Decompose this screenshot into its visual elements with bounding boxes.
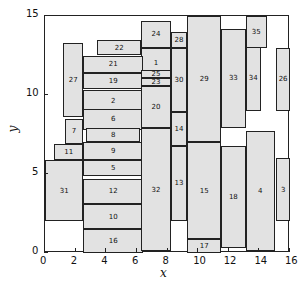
plot-area: 1234567891011121314151617181920212223242… (44, 15, 289, 252)
packed-rectangle: 7 (65, 119, 83, 144)
packed-rectangle: 22 (97, 40, 141, 56)
y-tick-label: 10 (26, 87, 39, 98)
packed-rectangle: 29 (187, 16, 221, 142)
packed-rectangle: 34 (246, 46, 261, 111)
x-tick-mark (75, 248, 76, 252)
packed-rectangle: 16 (83, 229, 143, 253)
packed-rectangle: 13 (171, 146, 188, 222)
y-tick-label: 5 (32, 166, 38, 177)
packed-rectangle: 17 (187, 239, 221, 253)
x-tick-label: 10 (193, 255, 206, 266)
x-tick-mark (289, 248, 290, 252)
packed-rectangle: 27 (63, 43, 83, 117)
x-tick-label: 4 (101, 255, 107, 266)
packed-rectangle: 33 (221, 29, 246, 129)
packed-rectangle: 6 (83, 109, 143, 130)
y-tick-mark (44, 94, 48, 95)
x-tick-label: 0 (40, 255, 46, 266)
packed-rectangle: 25 (141, 70, 170, 78)
packed-rectangle: 11 (54, 144, 83, 160)
packed-rectangle: 35 (246, 16, 267, 48)
y-tick-mark (44, 15, 48, 16)
y-tick-mark (44, 173, 48, 174)
packed-rectangle: 4 (246, 131, 275, 251)
packed-rectangle: 30 (171, 48, 188, 113)
packed-rectangle: 14 (171, 112, 188, 145)
packed-rectangle: 3 (276, 158, 290, 221)
packed-rectangle: 12 (83, 179, 143, 204)
packed-rectangle: 18 (221, 146, 246, 249)
x-tick-label: 6 (132, 255, 138, 266)
packed-rectangle: 15 (187, 142, 221, 238)
y-axis-label: y (6, 126, 20, 133)
packed-rectangle: 28 (171, 32, 188, 48)
y-tick-mark (44, 252, 48, 253)
y-tick-label: 15 (26, 8, 39, 19)
packed-rectangle: 2 (83, 90, 143, 111)
packed-rectangle: 32 (141, 128, 170, 251)
y-tick-label: 0 (32, 245, 38, 256)
x-tick-label: 12 (224, 255, 237, 266)
x-tick-mark (167, 248, 168, 252)
packed-rectangle: 8 (86, 128, 140, 142)
x-tick-mark (228, 248, 229, 252)
x-tick-mark (136, 248, 137, 252)
x-tick-mark (105, 248, 106, 252)
x-tick-mark (258, 248, 259, 252)
packed-rectangle: 26 (276, 48, 290, 111)
x-tick-mark (197, 248, 198, 252)
packed-rectangle: 20 (141, 86, 170, 129)
packed-rectangle: 21 (83, 56, 143, 73)
x-tick-label: 14 (254, 255, 267, 266)
packed-rectangle: 24 (141, 21, 170, 48)
x-tick-label: 8 (163, 255, 169, 266)
x-tick-label: 16 (285, 255, 298, 266)
packed-rectangle: 31 (45, 160, 83, 222)
x-axis-label: x (160, 266, 167, 280)
packed-rectangle: 10 (83, 204, 143, 229)
x-tick-label: 2 (71, 255, 77, 266)
packed-rectangle: 5 (83, 160, 143, 176)
packed-rectangle: 23 (141, 78, 170, 86)
packed-rectangle: 9 (83, 142, 143, 159)
packed-rectangle: 19 (83, 73, 143, 89)
